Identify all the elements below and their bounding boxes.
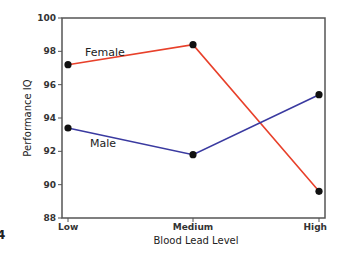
series-layer: FemaleMale <box>64 41 322 195</box>
y-tick-label: 96 <box>43 80 56 90</box>
series-label-male: Male <box>90 137 116 150</box>
y-axis-title: Performance IQ <box>22 79 33 156</box>
y-axis: 889092949698100 <box>37 13 62 223</box>
page-artifact-text: 4 <box>0 228 5 242</box>
data-point <box>315 91 322 98</box>
y-tick-label: 94 <box>43 113 56 123</box>
data-point <box>64 61 71 68</box>
series-female: Female <box>64 41 322 195</box>
y-tick-label: 100 <box>37 13 56 23</box>
data-point <box>64 124 71 131</box>
data-point <box>189 151 196 158</box>
line-chart: 889092949698100 LowMediumHigh FemaleMale… <box>0 0 343 260</box>
y-tick-label: 90 <box>43 180 56 190</box>
x-axis: LowMediumHigh <box>58 218 327 232</box>
y-tick-label: 92 <box>43 146 56 156</box>
x-tick-label: Medium <box>173 222 213 232</box>
series-label-female: Female <box>85 46 125 59</box>
x-tick-label: Low <box>58 222 78 232</box>
data-point <box>315 188 322 195</box>
series-male: Male <box>64 91 322 158</box>
x-axis-title: Blood Lead Level <box>154 235 239 246</box>
x-tick-label: High <box>304 222 327 232</box>
data-point <box>189 41 196 48</box>
y-tick-label: 98 <box>43 46 56 56</box>
y-tick-label: 88 <box>43 213 56 223</box>
